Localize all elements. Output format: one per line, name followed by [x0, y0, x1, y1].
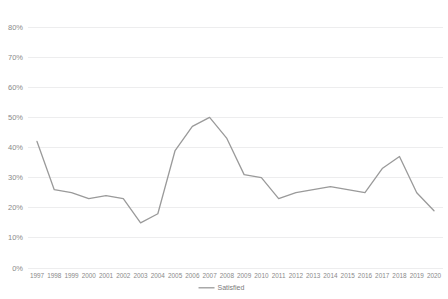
x-axis-tick-label: 2009	[237, 272, 252, 279]
y-axis-tick-labels: 0%10%20%30%40%50%60%70%80%	[8, 23, 23, 273]
y-axis-tick-label: 30%	[8, 173, 23, 182]
x-axis-tick-label: 2004	[151, 272, 166, 279]
y-axis-tick-label: 80%	[8, 23, 23, 32]
x-axis-tick-label: 2002	[116, 272, 131, 279]
x-axis-tick-label: 2012	[289, 272, 304, 279]
y-axis-tick-label: 50%	[8, 113, 23, 122]
x-axis-tick-label: 2000	[82, 272, 97, 279]
chart-plot-area: 0%10%20%30%40%50%60%70%80% 1997199819992…	[0, 0, 448, 299]
x-axis-tick-label: 2006	[185, 272, 200, 279]
x-axis-tick-label: 1997	[30, 272, 45, 279]
x-axis-tick-label: 2018	[392, 272, 407, 279]
x-axis-tick-label: 2019	[410, 272, 425, 279]
legend-label[interactable]: Satisfied	[218, 284, 245, 291]
x-axis-tick-label: 2001	[99, 272, 114, 279]
x-axis-tick-label: 2005	[168, 272, 183, 279]
x-axis-tick-labels: 1997199819992000200120022003200420052006…	[30, 272, 442, 279]
data-series-group	[37, 117, 434, 222]
y-axis-tick-label: 0%	[12, 264, 23, 273]
x-axis-tick-label: 2010	[254, 272, 269, 279]
series-line-satisfied	[37, 117, 434, 222]
x-axis-tick-label: 2007	[202, 272, 217, 279]
x-axis-tick-label: 2016	[358, 272, 373, 279]
x-axis-tick-label: 2013	[306, 272, 321, 279]
y-axis-tick-label: 10%	[8, 233, 23, 242]
x-axis-tick-label: 2015	[341, 272, 356, 279]
y-axis-tick-label: 70%	[8, 53, 23, 62]
x-axis-tick-label: 2011	[272, 272, 286, 279]
x-axis-tick-label: 1999	[64, 272, 79, 279]
line-chart: 0%10%20%30%40%50%60%70%80% 1997199819992…	[0, 0, 448, 299]
x-axis-tick-label: 1998	[47, 272, 62, 279]
x-axis-tick-label: 2003	[133, 272, 148, 279]
x-axis-tick-label: 2008	[220, 272, 235, 279]
x-axis-tick-label: 2020	[427, 272, 442, 279]
y-axis-tick-label: 40%	[8, 143, 23, 152]
x-axis-tick-label: 2017	[375, 272, 390, 279]
y-axis-tick-label: 20%	[8, 203, 23, 212]
y-axis-tick-label: 60%	[8, 83, 23, 92]
chart-legend: Satisfied	[199, 284, 245, 291]
x-axis-tick-label: 2014	[323, 272, 338, 279]
gridlines-group	[28, 27, 443, 268]
